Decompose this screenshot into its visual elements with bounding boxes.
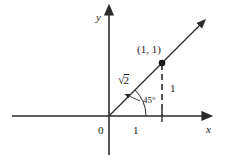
angle-leader-line <box>129 96 140 101</box>
y-unit-label: 1 <box>170 83 176 94</box>
diagram-canvas <box>0 0 226 164</box>
hypotenuse-length-label: √2 <box>118 74 129 86</box>
x-axis-label: x <box>206 124 211 135</box>
y-axis-label: y <box>96 12 101 23</box>
angle-label: 45° <box>143 96 156 105</box>
point-marker <box>159 60 166 67</box>
point-label: (1, 1) <box>137 44 161 55</box>
x-unit-label: 1 <box>133 125 139 136</box>
radicand: 2 <box>124 74 130 86</box>
coordinate-plane-figure: y x 0 (1, 1) √2 45° 1 1 <box>0 0 226 164</box>
origin-label: 0 <box>98 125 104 136</box>
